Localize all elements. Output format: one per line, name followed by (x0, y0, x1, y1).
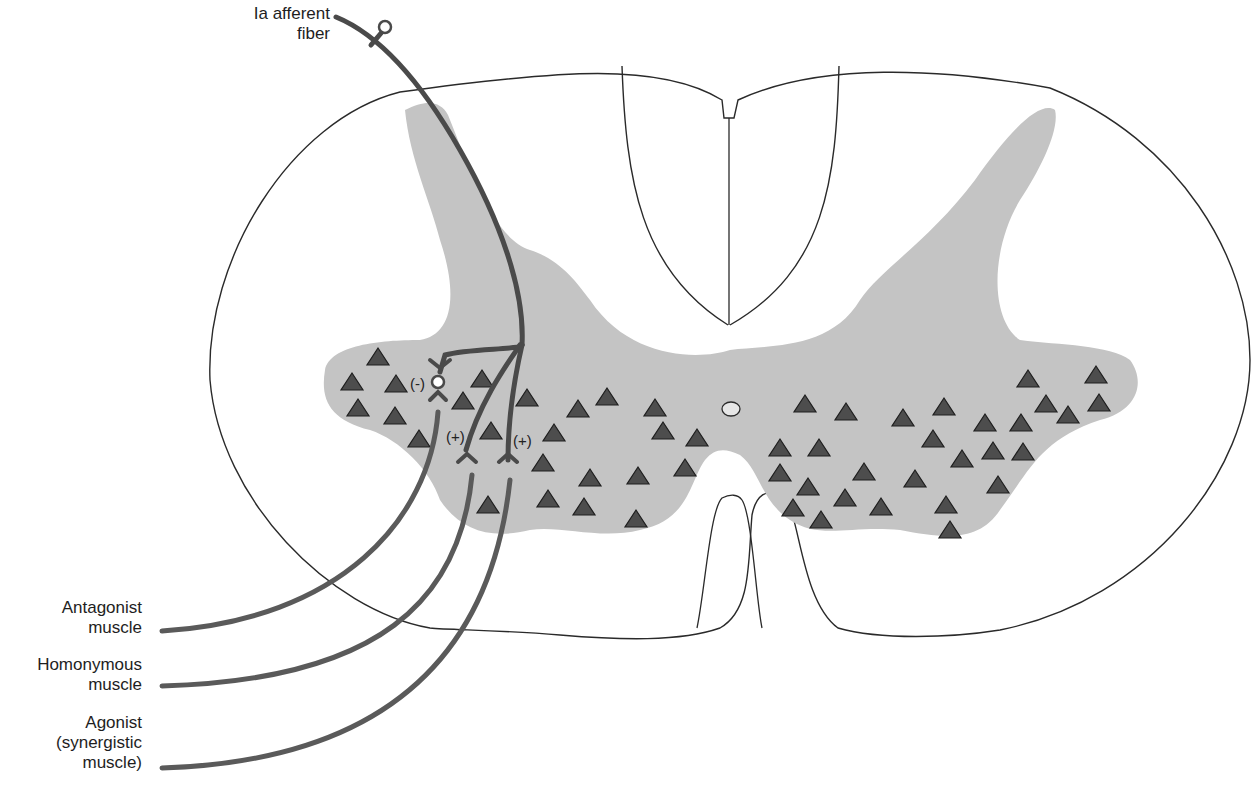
excitatory-sign-agonist: (+) (513, 432, 532, 449)
dorsal-root-ganglion-icon (379, 21, 391, 33)
label-agonist-muscle: Agonist (synergistic muscle) (0, 713, 142, 773)
inhibitory-sign: (-) (410, 375, 425, 392)
spinal-cord-diagram: (-) (+) (+) (0, 0, 1254, 791)
label-homonymous-muscle: Homonymous muscle (0, 655, 142, 695)
inhibitory-interneuron-icon (432, 376, 444, 388)
label-antagonist-muscle: Antagonist muscle (0, 598, 142, 638)
central-canal (722, 402, 740, 416)
label-ia-afferent-fiber: Ia afferent fiber (200, 4, 330, 44)
excitatory-sign-homonymous: (+) (446, 428, 465, 445)
